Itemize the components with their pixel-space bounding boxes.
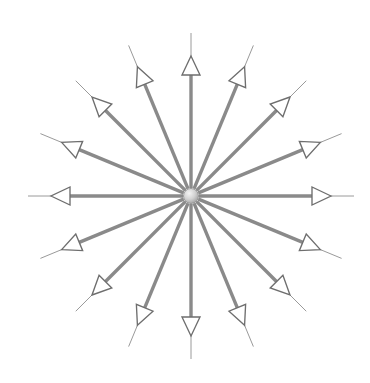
- center-sphere: [184, 189, 199, 204]
- radial-diagram-canvas: [0, 0, 370, 383]
- radial-arrow-diagram: Radial arrow diagram Sixteen arrows radi…: [0, 0, 370, 383]
